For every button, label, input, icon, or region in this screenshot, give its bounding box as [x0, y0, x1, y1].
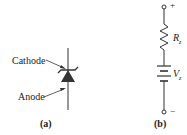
minus-terminal-label: −	[170, 107, 175, 116]
caption-a: (a)	[40, 119, 52, 129]
caption-b: (b)	[154, 119, 166, 129]
zener-diagram	[0, 0, 187, 135]
resistor-label: Rz	[173, 33, 181, 45]
zener-diode-symbol	[44, 48, 78, 110]
cathode-label: Cathode	[12, 56, 45, 66]
zener-equivalent-circuit	[157, 5, 171, 114]
anode-label: Anode	[18, 92, 45, 102]
plus-terminal-label: +	[170, 1, 175, 10]
zener-voltage-label: Vz	[173, 69, 181, 81]
